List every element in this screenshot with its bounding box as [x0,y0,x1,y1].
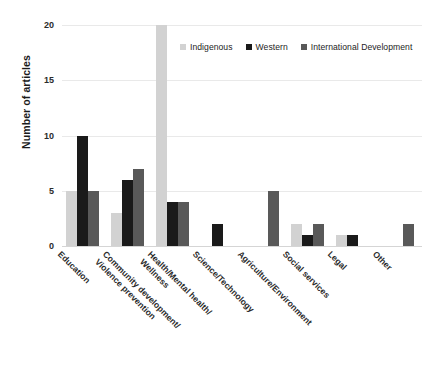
bar-chart: Number of articles 05101520 EducationCom… [0,0,431,368]
gridline [62,246,422,247]
bars-layer [62,25,422,246]
bar [313,224,324,246]
bar [403,224,414,246]
bar [302,235,313,246]
bar-group [62,25,107,246]
y-tick-label: 5 [24,186,54,196]
bar [66,191,77,246]
bar [336,235,347,246]
x-axis-label: Social services [281,249,332,300]
legend-swatch-icon [301,44,307,50]
y-tick-label: 10 [24,131,54,141]
bar-group [197,25,242,246]
bar-group [332,25,377,246]
bar-group [107,25,152,246]
bar-group [242,25,287,246]
bar [291,224,302,246]
bar [178,202,189,246]
y-axis-ticks: 05101520 [22,25,62,246]
y-tick-label: 20 [24,20,54,30]
x-axis-label: Other [371,249,395,273]
x-axis-label: Legal [326,249,349,272]
legend-label: Indigenous [190,42,233,52]
legend-item: Western [246,42,288,52]
bar [111,213,122,246]
bar [347,235,358,246]
y-tick-label: 0 [24,241,54,251]
x-axis-labels: EducationCommunity development/Violence … [62,249,431,367]
legend-item: Indigenous [180,42,233,52]
bar [212,224,223,246]
bar [122,180,133,246]
bar [133,169,144,246]
x-axis-label: Agriculture/Environment [236,249,315,328]
legend-swatch-icon [246,44,252,50]
bar-group [377,25,422,246]
plot-area [62,25,422,246]
bar-group [152,25,197,246]
legend-label: International Development [311,42,413,52]
bar-group [287,25,332,246]
bar [77,136,88,247]
bar [88,191,99,246]
bar [156,25,167,246]
bar [268,191,279,246]
x-axis-label: Education [56,249,93,286]
legend-label: Western [256,42,288,52]
legend-swatch-icon [180,44,186,50]
y-tick-label: 15 [24,75,54,85]
legend-item: International Development [301,42,413,52]
chart-legend: IndigenousWesternInternational Developme… [180,42,412,52]
bar [167,202,178,246]
